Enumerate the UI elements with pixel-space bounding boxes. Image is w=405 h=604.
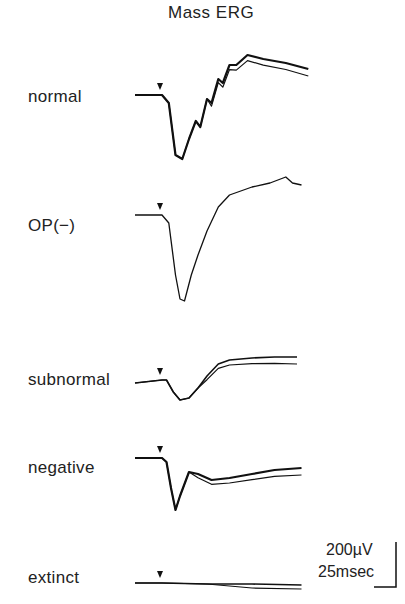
stimulus-marker-icon	[157, 446, 163, 453]
scale-bar	[374, 542, 396, 587]
stimulus-marker-icon	[157, 571, 163, 578]
stimulus-marker-icon	[157, 83, 163, 90]
stimulus-marker-icon	[157, 203, 163, 210]
trace-normal-2	[135, 61, 308, 159]
trace-normal-1	[135, 55, 308, 159]
trace-negative-2	[135, 458, 302, 510]
scale-time-label: 25msec	[318, 563, 374, 581]
erg-traces	[0, 0, 405, 604]
stimulus-marker-icon	[157, 368, 163, 375]
scale-amplitude-label: 200µV	[326, 541, 373, 559]
trace-op-1	[135, 177, 302, 301]
